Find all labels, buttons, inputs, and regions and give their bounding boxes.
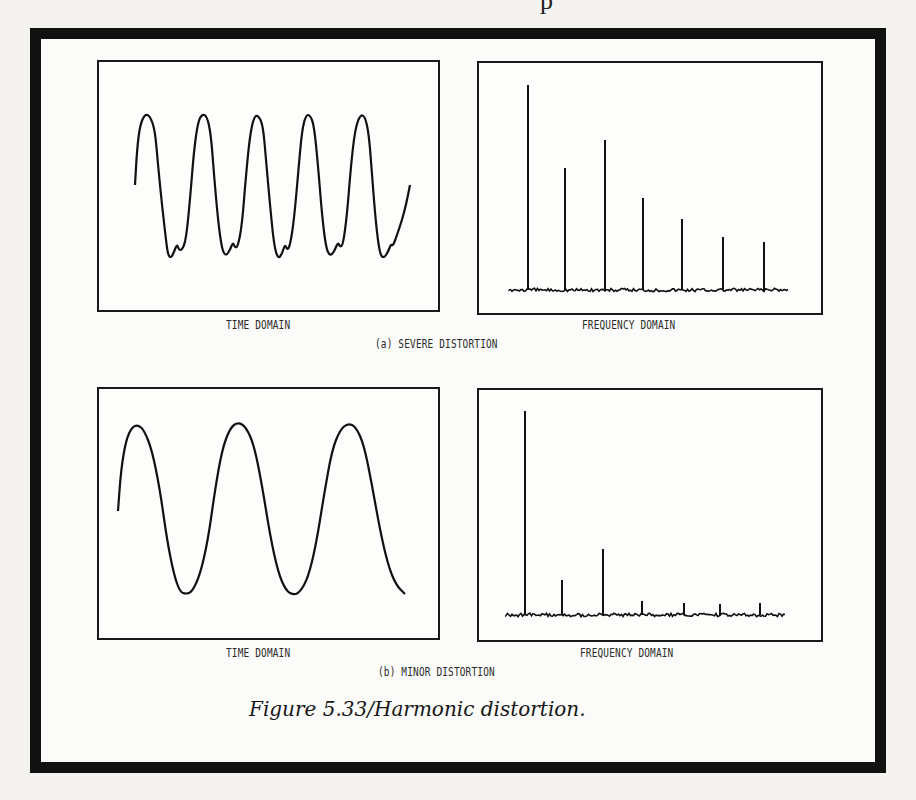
subcaption-b: (b) MINOR DISTORTION: [378, 665, 495, 679]
time-domain-label-a: TIME DOMAIN: [226, 318, 290, 332]
frequency-domain-panel-severe: [477, 61, 823, 315]
page-text-fragment: p: [540, 0, 553, 16]
frequency-domain-panel-minor: [477, 388, 823, 642]
time-domain-label-b: TIME DOMAIN: [226, 646, 290, 660]
minor-waveform-plot: [99, 389, 438, 638]
minor-spectrum-plot: [479, 390, 821, 640]
waveform-trace: [118, 423, 405, 594]
frequency-domain-label-a: FREQUENCY DOMAIN: [582, 318, 675, 332]
subcaption-a: (a) SEVERE DISTORTION: [375, 337, 498, 351]
severe-spectrum-plot: [479, 63, 821, 313]
time-domain-panel-minor: [97, 387, 440, 640]
severe-waveform-plot: [99, 62, 438, 310]
time-domain-panel-severe: [97, 60, 440, 312]
noise-floor: [509, 288, 788, 291]
noise-floor: [506, 613, 785, 616]
figure-caption: Figure 5.33/Harmonic distortion.: [249, 697, 586, 721]
frequency-domain-label-b: FREQUENCY DOMAIN: [580, 646, 673, 660]
waveform-trace: [135, 115, 410, 257]
